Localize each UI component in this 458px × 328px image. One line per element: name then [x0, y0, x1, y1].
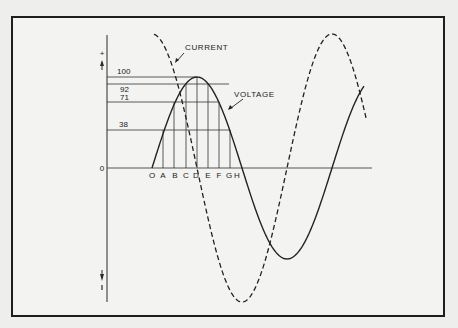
- point-h: H: [234, 171, 240, 180]
- point-g: G: [226, 171, 232, 180]
- current-label: CURRENT: [185, 43, 228, 52]
- figure-frame: [12, 17, 444, 316]
- level-label-38: 38: [119, 120, 128, 129]
- plus-sign: +: [100, 49, 105, 58]
- zero-label: 0: [100, 164, 105, 173]
- x-point-labels: O A B C D E F G H: [149, 171, 240, 180]
- point-e: E: [205, 171, 210, 180]
- point-b: B: [172, 171, 177, 180]
- level-label-100: 100: [117, 67, 131, 76]
- point-o: O: [149, 171, 155, 180]
- sine-wave-diagram: + AMPLITUDE 0 100 92 71 38 O A B C D E F…: [0, 0, 458, 328]
- voltage-label: VOLTAGE: [234, 90, 275, 99]
- point-f: F: [217, 171, 222, 180]
- point-c: C: [183, 171, 189, 180]
- level-label-71: 71: [120, 93, 129, 102]
- point-a: A: [160, 171, 166, 180]
